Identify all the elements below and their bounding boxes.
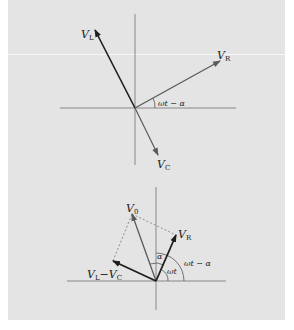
label-omega-t: ωt [167,267,178,276]
top-angle-arc [153,98,155,108]
label-VR-bottom: VR [178,228,192,242]
phasor-diagrams: VL VR VC ωt − α V0 VR VL−VC α ωt ωt − α [0,0,294,330]
label-alpha: α [157,252,163,261]
label-VR: VR [217,49,231,63]
label-VL-minus-VC: VL−VC [87,268,122,282]
label-VL: VL [81,28,94,42]
vector-VL [95,30,135,108]
vector-VC [135,108,158,155]
label-VC: VC [157,158,170,172]
bottom-phasor-diagram: V0 VR VL−VC α ωt ωt − α [67,187,226,310]
dashed-parallelogram-left [113,214,132,261]
top-phasor-diagram: VL VR VC ωt − α [60,14,236,172]
label-top-angle: ωt − α [158,99,186,108]
arc-alpha [150,263,164,265]
label-bottom-angle: ωt − α [184,259,212,268]
label-V0: V0 [126,202,138,216]
